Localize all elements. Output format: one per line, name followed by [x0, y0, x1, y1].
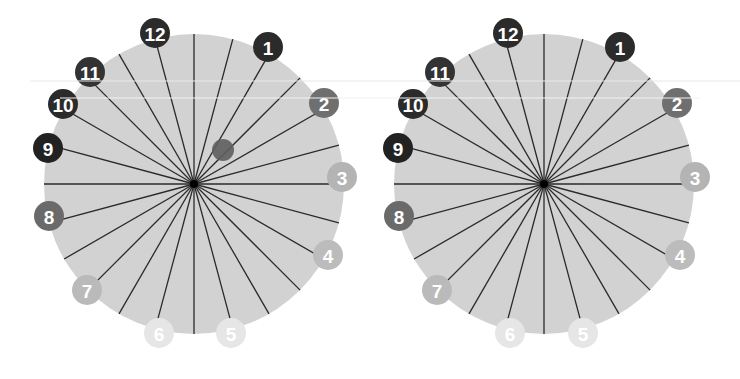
badge-label: 4 [323, 246, 334, 267]
badge-label: 3 [690, 168, 701, 189]
badge-label: 12 [144, 24, 165, 45]
hour-badge-9: 9 [383, 133, 413, 163]
hour-badge-2: 2 [309, 88, 339, 118]
hour-badge-11: 11 [75, 57, 105, 87]
badge-label: 2 [672, 94, 683, 115]
hour-badge-4: 4 [665, 240, 695, 270]
hub-dot [540, 180, 548, 188]
badge-label: 6 [154, 324, 165, 345]
clock-wheels-diagram: 121234567891011 121234567891011 [0, 0, 740, 379]
hour-badge-6: 6 [495, 318, 525, 348]
hour-badge-3: 3 [680, 162, 710, 192]
hour-badge-6: 6 [144, 318, 174, 348]
hub-dot [190, 180, 198, 188]
badge-label: 6 [505, 324, 516, 345]
right-clock-wheel: 121234567891011 [383, 18, 710, 348]
badge-label: 3 [337, 168, 348, 189]
badge-label: 4 [675, 246, 686, 267]
badge-label: 11 [430, 63, 451, 84]
badge-label: 12 [497, 24, 518, 45]
hour-badge-8: 8 [34, 201, 64, 231]
badge-label: 1 [615, 38, 626, 59]
badge-label: 5 [578, 324, 589, 345]
badge-label: 8 [394, 207, 405, 228]
hour-badge-10: 10 [398, 89, 428, 119]
hour-badge-8: 8 [384, 201, 414, 231]
hour-badge-1: 1 [253, 32, 283, 62]
badge-label: 1 [263, 38, 274, 59]
hour-badge-9: 9 [33, 133, 63, 163]
left-clock-wheel: 121234567891011 [33, 18, 357, 348]
hour-badge-7: 7 [422, 275, 452, 305]
badge-label: 7 [82, 281, 93, 302]
hour-badge-3: 3 [327, 162, 357, 192]
hour-badge-12: 12 [493, 18, 523, 48]
hour-badge-11: 11 [425, 57, 455, 87]
hour-badge-4: 4 [313, 240, 343, 270]
badge-label: 11 [80, 63, 101, 84]
hour-badge-5: 5 [216, 318, 246, 348]
position-marker [212, 139, 234, 161]
badge-label: 9 [43, 139, 54, 160]
badge-label: 5 [226, 324, 237, 345]
hour-badge-7: 7 [72, 275, 102, 305]
badge-label: 2 [319, 94, 330, 115]
badge-label: 9 [393, 139, 404, 160]
hour-badge-1: 1 [605, 32, 635, 62]
hour-badge-2: 2 [662, 88, 692, 118]
badge-label: 7 [432, 281, 443, 302]
hour-badge-10: 10 [48, 89, 78, 119]
hour-badge-5: 5 [568, 318, 598, 348]
hour-badge-12: 12 [140, 18, 170, 48]
badge-label: 8 [44, 207, 55, 228]
